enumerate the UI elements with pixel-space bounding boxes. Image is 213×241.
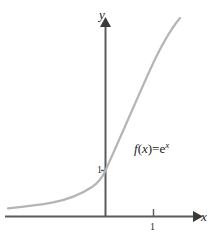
x-axis-label: x bbox=[201, 210, 207, 223]
exponential-function-figure: y x 1 1 f(x)=ex bbox=[0, 0, 213, 241]
equation-exponent: x bbox=[165, 140, 169, 150]
exponential-curve bbox=[8, 18, 180, 208]
y-axis-tick-label-1: 1 bbox=[97, 165, 102, 175]
plot-canvas bbox=[0, 0, 213, 241]
curve-equation-label: f(x)=ex bbox=[134, 142, 169, 155]
x-axis-tick-label-1: 1 bbox=[150, 222, 155, 232]
y-axis-label: y bbox=[99, 8, 105, 21]
